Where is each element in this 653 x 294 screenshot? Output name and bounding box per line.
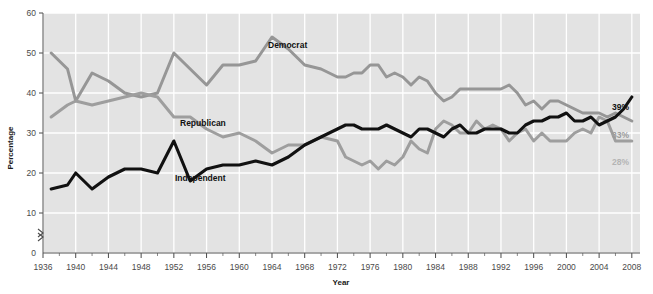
- series-label-democrat: Democrat: [268, 40, 307, 50]
- x-tick-label: 1976: [361, 262, 380, 272]
- x-tick-label: 1988: [459, 262, 478, 272]
- y-axis-title: Percentage: [6, 126, 15, 170]
- x-tick-label: 1940: [66, 262, 85, 272]
- x-tick-label: 1960: [230, 262, 249, 272]
- end-label-democrat: 33%: [612, 130, 629, 140]
- x-tick-label: 2008: [622, 262, 641, 272]
- y-tick-label: 0: [31, 248, 36, 258]
- end-label-republican: 28%: [612, 157, 629, 167]
- x-tick-label: 1984: [426, 262, 445, 272]
- x-tick-label: 1972: [328, 262, 347, 272]
- x-tick-label: 1980: [393, 262, 412, 272]
- x-tick-label: 1952: [164, 262, 183, 272]
- x-tick-label: 2000: [557, 262, 576, 272]
- y-tick-label: 20: [27, 168, 37, 178]
- x-tick-label: 2004: [590, 262, 609, 272]
- series-label-independent: Independent: [175, 173, 226, 183]
- series-label-republican: Republican: [180, 118, 226, 128]
- line-chart-svg: 0102030405060 19361940194419481952195619…: [0, 0, 653, 294]
- x-tick-label: 1936: [34, 262, 53, 272]
- x-tick-label: 1996: [524, 262, 543, 272]
- chart-container: 0102030405060 19361940194419481952195619…: [0, 0, 653, 294]
- y-tick-label: 30: [27, 128, 37, 138]
- x-tick-label: 1956: [197, 262, 216, 272]
- y-tick-label: 50: [27, 48, 37, 58]
- x-tick-label: 1968: [295, 262, 314, 272]
- series-end-labels: 39%33%28%: [612, 102, 629, 167]
- x-tick-label: 1992: [492, 262, 511, 272]
- end-label-independent: 39%: [612, 102, 629, 112]
- x-tick-label: 1944: [99, 262, 118, 272]
- x-tick-label: 1948: [132, 262, 151, 272]
- y-tick-label: 40: [27, 88, 37, 98]
- y-tick-label: 60: [27, 8, 37, 18]
- x-axis-title: Year: [333, 278, 350, 287]
- x-tick-label: 1964: [263, 262, 282, 272]
- y-tick-label: 10: [27, 208, 37, 218]
